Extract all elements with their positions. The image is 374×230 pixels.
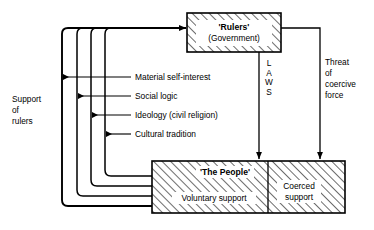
- rulers-subtitle: (Government): [187, 33, 281, 44]
- coercive-force-arrow: [281, 28, 320, 159]
- support-of-rulers-line2: of: [12, 105, 19, 116]
- support-of-rulers-line3: rulers: [12, 116, 33, 127]
- threat-label-line2: of: [325, 68, 332, 79]
- laws-letter-s: S: [263, 88, 275, 98]
- support-path-cultural: [105, 28, 183, 176]
- laws-label: L A W S: [263, 59, 275, 97]
- channel-label-social-logic: Social logic: [135, 91, 177, 102]
- people-title: 'The People': [178, 167, 272, 178]
- threat-label-line4: force: [325, 90, 343, 101]
- people-voluntary-support-label: Voluntary support: [172, 193, 256, 204]
- diagram-canvas: 'Rulers' (Government) 'The People' Volun…: [0, 0, 374, 230]
- people-coerced-support-line1: Coerced: [277, 181, 321, 192]
- channel-label-material-self-interest: Material self-interest: [135, 72, 210, 83]
- people-coerced-support-line2: support: [277, 192, 321, 203]
- support-of-rulers-line1: Support: [12, 94, 41, 105]
- threat-label-line1: Threat: [325, 57, 349, 68]
- channel-label-ideology: Ideology (civil religion): [135, 110, 218, 121]
- rulers-title: 'Rulers': [187, 22, 281, 33]
- threat-label-line3: coercive: [325, 79, 356, 90]
- channel-label-cultural-tradition: Cultural tradition: [135, 129, 196, 140]
